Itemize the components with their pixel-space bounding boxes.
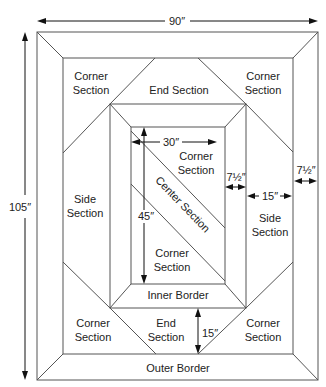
label-outer-border: Outer Border xyxy=(146,362,210,374)
label-left-side-1: Side xyxy=(74,193,96,205)
label-inner-border: Inner Border xyxy=(147,289,208,301)
label-top-left-corner-1: Corner xyxy=(74,70,108,82)
label-top-left-corner-2: Section xyxy=(73,84,110,96)
label-bottom-left-corner-2: Section xyxy=(75,331,112,343)
overall-height-label: 105″ xyxy=(9,201,31,213)
label-bottom-right-corner-1: Corner xyxy=(246,317,280,329)
label-center-section: Center Section xyxy=(153,174,212,235)
center-width-label: 30″ xyxy=(163,136,179,148)
label-bottom-right-corner-2: Section xyxy=(245,331,282,343)
side-section-width-label: 15″ xyxy=(262,190,278,202)
label-top-right-corner-1: Corner xyxy=(246,70,280,82)
label-center-lower-corner-1: Corner xyxy=(155,247,189,259)
quilt-layout-diagram: 90″ 105″ 30″ 45″ 7½″ 7½″ xyxy=(0,0,326,387)
end-section-height-arrow: 15″ xyxy=(195,308,218,354)
label-bottom-end-2: Section xyxy=(148,331,185,343)
label-center-upper-corner-1: Corner xyxy=(179,150,213,162)
center-height-label: 45″ xyxy=(138,210,154,222)
end-section-height-label: 15″ xyxy=(202,327,218,339)
width-dimension-arrow: 90″ xyxy=(37,15,318,27)
label-center-upper-corner-2: Section xyxy=(178,164,215,176)
side-section-width-arrow: 15″ xyxy=(247,190,292,202)
outer-border-width-arrow: 7½″ xyxy=(294,164,317,184)
height-dimension-arrow: 105″ xyxy=(9,32,31,380)
label-right-side-1: Side xyxy=(259,212,281,224)
label-bottom-left-corner-1: Corner xyxy=(76,317,110,329)
inner-border-width-label: 7½″ xyxy=(226,171,245,183)
label-top-end: End Section xyxy=(149,84,208,96)
label-right-side-2: Section xyxy=(252,226,289,238)
label-top-right-corner-2: Section xyxy=(245,84,282,96)
outer-border-width-label: 7½″ xyxy=(296,164,315,176)
label-center-lower-corner-2: Section xyxy=(154,261,191,273)
inner-border-width-arrow: 7½″ xyxy=(225,171,246,190)
label-bottom-end-1: End xyxy=(156,317,176,329)
label-left-side-2: Section xyxy=(67,207,104,219)
overall-width-label: 90″ xyxy=(169,15,185,27)
section-labels: Corner Section End Section Corner Sectio… xyxy=(67,70,289,374)
